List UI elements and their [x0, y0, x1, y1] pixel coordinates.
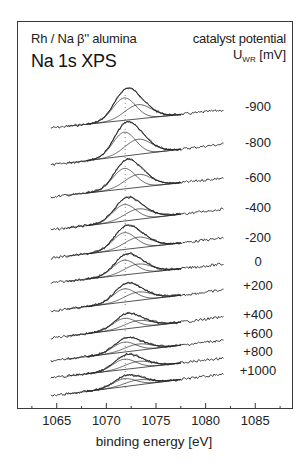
spectrum-data	[51, 337, 224, 362]
fit-envelope	[87, 354, 181, 373]
potential-label: -200	[236, 230, 280, 245]
x-tick-label: 1080	[186, 413, 226, 428]
legend-unit: UWR [mV]	[233, 47, 286, 64]
fit-component-2	[87, 320, 181, 333]
legend-unit-tail: [mV]	[256, 47, 286, 62]
potential-label: +800	[236, 344, 280, 359]
legend-unit-sub: WR	[242, 55, 255, 64]
fit-envelope	[87, 225, 181, 254]
spectrum-data	[51, 353, 224, 378]
fit-component-1	[87, 318, 181, 333]
spectrum-data	[51, 282, 224, 312]
fit-envelope	[87, 197, 181, 226]
potential-label: +400	[236, 307, 280, 322]
fit-component-2	[87, 292, 181, 307]
spectrum-data	[51, 225, 224, 259]
potential-label: -900	[236, 99, 280, 114]
x-axis-label: binding energy [eV]	[0, 434, 308, 449]
fit-component-2	[87, 139, 181, 160]
sample-label: Rh / Na β'' alumina	[31, 31, 136, 46]
fit-envelope	[87, 375, 181, 392]
spectrum-data	[51, 158, 224, 198]
potential-label: -600	[236, 170, 280, 185]
spectrum-data	[51, 253, 224, 284]
x-tick-label: 1070	[86, 413, 126, 428]
x-tick-label: 1075	[136, 413, 176, 428]
potential-label: -400	[236, 200, 280, 215]
chart-title: Na 1s XPS	[31, 51, 116, 72]
potential-label: +600	[236, 326, 280, 341]
x-tick-label: 1085	[235, 413, 275, 428]
fit-component-2	[87, 237, 181, 254]
potential-label: +1000	[236, 363, 280, 378]
legend-title: catalyst potential	[193, 31, 286, 46]
fit-component-2	[87, 264, 181, 279]
legend-unit-main: U	[233, 47, 242, 62]
spectrum-data	[51, 196, 224, 230]
spectrum-data	[51, 312, 224, 339]
fit-envelope	[87, 283, 181, 307]
potential-label: 0	[236, 254, 280, 269]
potential-label: +200	[236, 278, 280, 293]
spectrum-data	[51, 88, 224, 128]
x-tick-label: 1065	[37, 413, 77, 428]
xps-figure: Rh / Na β'' alumina Na 1s XPS catalyst p…	[0, 0, 308, 474]
potential-label: -800	[236, 135, 280, 150]
spectrum-data	[51, 121, 224, 165]
